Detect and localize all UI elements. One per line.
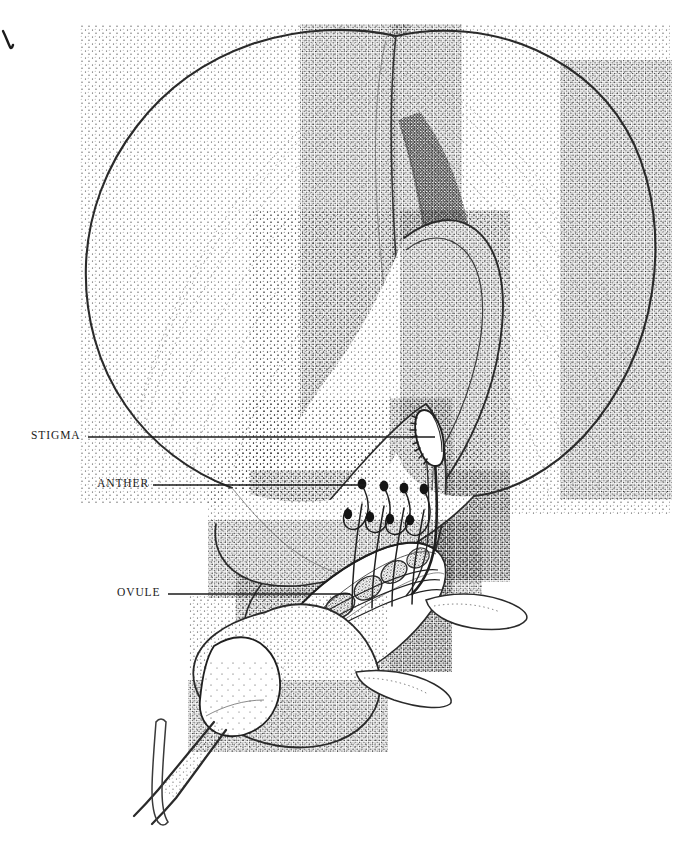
anther xyxy=(386,514,394,524)
label-ovule: OVULE xyxy=(117,587,160,599)
pedicel xyxy=(134,722,226,824)
anther xyxy=(400,483,409,494)
label-stigma: STIGMA xyxy=(31,430,81,442)
anther xyxy=(358,479,367,490)
anther xyxy=(366,512,374,522)
pen-check-mark xyxy=(3,31,13,48)
illustration-page: STIGMA ANTHER OVULE xyxy=(0,0,677,842)
anther xyxy=(380,481,389,492)
botanical-figure xyxy=(0,0,677,842)
anther xyxy=(344,509,352,519)
label-anther: ANTHER xyxy=(97,478,149,490)
anther xyxy=(406,515,414,525)
anther xyxy=(420,484,429,495)
